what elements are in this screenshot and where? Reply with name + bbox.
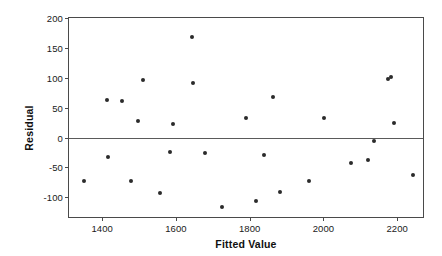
y-axis-tick-label: 200: [47, 13, 63, 24]
data-point: [372, 139, 376, 143]
y-axis-tick-label: 0: [58, 132, 63, 143]
data-point: [411, 173, 415, 177]
x-axis-tick: [323, 217, 324, 221]
data-point: [141, 78, 145, 82]
y-axis-tick: [65, 18, 69, 19]
x-axis-tick: [250, 217, 251, 221]
y-axis-tick-label: -100: [44, 192, 63, 203]
x-axis-tick-label: 1400: [91, 223, 113, 234]
y-axis-tick: [65, 138, 69, 139]
plot-area: [69, 18, 423, 217]
data-point: [203, 151, 207, 155]
x-axis-tick: [397, 217, 398, 221]
x-axis-tick-label: 1600: [165, 223, 187, 234]
y-axis-tick-label: 100: [47, 72, 63, 83]
data-point: [307, 179, 311, 183]
data-point: [271, 95, 275, 99]
data-point: [105, 98, 109, 102]
data-point: [82, 179, 86, 183]
data-point: [191, 81, 195, 85]
y-axis-tick: [65, 48, 69, 49]
x-axis-tick: [102, 217, 103, 221]
x-axis-title: Fitted Value: [68, 238, 424, 250]
data-point: [366, 158, 370, 162]
plot-frame: 200150100500-50-10014001600180020002200: [68, 17, 424, 218]
data-point: [349, 161, 353, 165]
data-point: [322, 116, 326, 120]
data-point: [244, 116, 248, 120]
data-point: [168, 150, 172, 154]
data-point: [278, 190, 282, 194]
data-point: [262, 153, 266, 157]
y-axis-tick: [65, 197, 69, 198]
data-point: [190, 35, 194, 39]
data-point: [120, 99, 124, 103]
residual-plot-figure: Residual 200150100500-50-100140016001800…: [0, 0, 442, 256]
y-axis-tick-label: 150: [47, 42, 63, 53]
data-point: [106, 155, 110, 159]
y-axis-tick-label: 50: [52, 102, 63, 113]
data-point: [392, 121, 396, 125]
y-axis-tick: [65, 167, 69, 168]
y-axis-tick: [65, 78, 69, 79]
x-axis-tick-label: 2000: [313, 223, 335, 234]
x-axis-tick-label: 2200: [386, 223, 408, 234]
data-point: [220, 205, 224, 209]
data-point: [171, 122, 175, 126]
y-axis-tick-label: -50: [49, 162, 63, 173]
y-axis-tick: [65, 108, 69, 109]
y-axis-title: Residual: [23, 105, 35, 150]
x-axis-tick: [176, 217, 177, 221]
data-point: [158, 191, 162, 195]
data-point: [254, 199, 258, 203]
data-point: [389, 75, 393, 79]
zero-reference-line: [69, 138, 423, 139]
x-axis-tick-label: 1800: [239, 223, 261, 234]
data-point: [136, 119, 140, 123]
data-point: [129, 179, 133, 183]
